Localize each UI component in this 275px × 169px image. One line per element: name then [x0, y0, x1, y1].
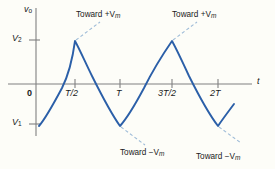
origin-label: 0 [27, 88, 32, 98]
annotation-toward-minus-vm-right: Toward −Vm [196, 152, 240, 161]
annotation-toward-minus-vm-left: Toward −Vm [120, 148, 164, 157]
leader-top-right [173, 22, 197, 40]
x-tick-label-t-half: T/2 [65, 88, 78, 98]
leader-top-left [76, 22, 100, 40]
annotation-toward-plus-vm-left: Toward +Vm [76, 10, 120, 19]
x-tick-label-2t: 2T [210, 88, 221, 98]
y-axis-label: vo [24, 4, 32, 14]
annotation-toward-plus-vm-right: Toward +Vm [172, 10, 216, 19]
y-tick-label-v1: V1 [12, 117, 22, 127]
x-axis-label: t [257, 76, 260, 86]
x-tick-label-3t-half: 3T/2 [158, 88, 176, 98]
leader-bottom-right [219, 127, 241, 143]
waveform-figure [0, 0, 275, 169]
x-tick-label-t: T [116, 88, 122, 98]
y-tick-label-v2: V2 [12, 33, 22, 43]
leader-bottom-left [121, 127, 145, 145]
